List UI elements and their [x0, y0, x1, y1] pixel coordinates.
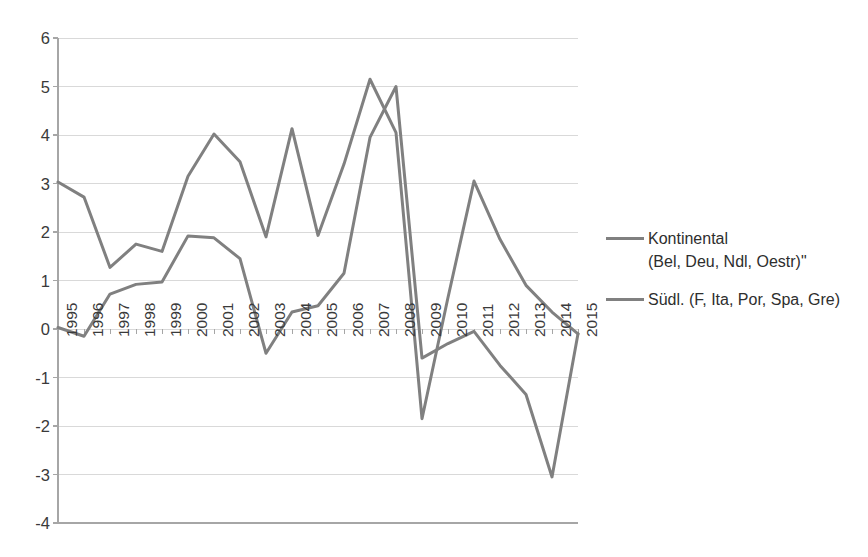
x-axis-tick-label: 2004: [298, 303, 314, 337]
y-axis-tick-label: -2: [16, 418, 50, 435]
x-axis-tick-label: 2005: [324, 303, 340, 337]
x-axis-tick-label: 2009: [428, 303, 444, 337]
x-axis-tick-label: 1995: [64, 303, 80, 337]
x-axis-tick-label: 2003: [272, 303, 288, 337]
line-chart: 6543210-1-2-3-4 199519961997199819992000…: [0, 0, 868, 557]
x-axis-tick-label: 1997: [116, 303, 132, 337]
x-axis-tick-label: 2011: [480, 304, 496, 337]
legend-line-swatch-icon: [606, 237, 644, 240]
x-axis-tick-label: 2013: [532, 303, 548, 337]
x-axis-tick-label: 2010: [454, 303, 470, 337]
x-axis-tick-label: 2007: [376, 303, 392, 337]
x-axis-tick-label: 2015: [584, 303, 600, 337]
legend-label: Südl. (F, Ita, Por, Spa, Gre): [648, 289, 840, 312]
x-axis-tick-label: 2000: [194, 303, 210, 337]
x-axis-tick-label: 1998: [142, 303, 158, 337]
x-axis-tick-label: 1999: [168, 303, 184, 337]
y-axis-tick-label: 6: [16, 30, 50, 47]
y-axis-tick-label: -3: [16, 467, 50, 484]
x-axis-tick-label: 2014: [558, 303, 574, 337]
y-axis-tick-label: 1: [16, 273, 50, 290]
x-axis-tick-label: 2002: [246, 303, 262, 337]
legend-entry[interactable]: Südl. (F, Ita, Por, Spa, Gre): [606, 289, 858, 312]
x-axis-tick-label: 1996: [90, 303, 106, 337]
y-axis-tick-label: 0: [16, 321, 50, 338]
y-axis-tick-label: -4: [16, 515, 50, 532]
x-axis-tick-label: 2006: [350, 303, 366, 337]
x-axis-tick-label: 2008: [402, 303, 418, 337]
legend-entry[interactable]: Kontinental (Bel, Deu, Ndl, Oestr)": [606, 228, 858, 273]
x-axis-tick-label: 2012: [506, 303, 522, 337]
y-axis-tick-label: 2: [16, 224, 50, 241]
y-axis-labels: 6543210-1-2-3-4: [14, 0, 50, 557]
y-axis-tick-label: 5: [16, 79, 50, 96]
x-axis-tick-label: 2001: [220, 303, 236, 337]
legend-label: Kontinental (Bel, Deu, Ndl, Oestr)": [648, 228, 807, 273]
y-axis-tick-label: -1: [16, 370, 50, 387]
y-axis-tick-label: 3: [16, 176, 50, 193]
legend-line-swatch-icon: [606, 298, 644, 301]
x-axis-labels: 1995199619971998199920002001200220032004…: [58, 0, 578, 557]
y-axis-tick-label: 4: [16, 127, 50, 144]
chart-legend: Kontinental (Bel, Deu, Ndl, Oestr)"Südl.…: [606, 228, 858, 328]
